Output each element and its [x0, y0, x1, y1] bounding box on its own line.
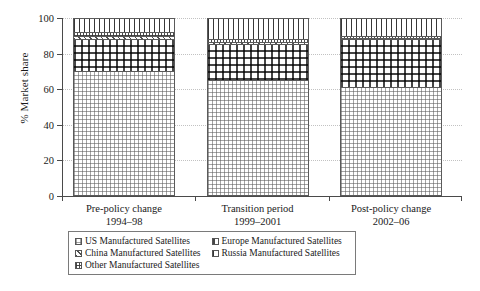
legend-label-russia: Russia Manufactured Satellites: [222, 247, 340, 259]
x-category-label-3-line2: 2002–06: [316, 216, 466, 229]
legend-cell-us[interactable]: US Manufactured Satellites: [73, 235, 210, 247]
y-tick-label-0: 0: [49, 191, 54, 202]
russia-swatch-icon: [212, 250, 219, 257]
x-category-label-1: Pre-policy change 1994–98: [49, 203, 199, 228]
y-tick-label-40: 40: [44, 119, 55, 130]
china-swatch-icon: [75, 250, 82, 257]
legend-label-china: China Manufactured Satellites: [85, 247, 201, 259]
bar1-segment-us[interactable]: [74, 71, 174, 196]
bar2-segment-us[interactable]: [208, 80, 308, 196]
legend-row-3: Other Manufactured Satellites: [73, 259, 351, 271]
plot-area: 100 80 60 40 20 0: [62, 18, 462, 196]
legend-row-1: US Manufactured Satellites Europe Manufa…: [73, 235, 351, 247]
y-axis-line: [62, 18, 63, 196]
stacked-bar-chart: % Market share 100 80 60 40 20: [0, 0, 480, 291]
legend-cell-europe[interactable]: Europe Manufactured Satellites: [210, 235, 352, 247]
x-category-label-1-line2: 1994–98: [49, 216, 199, 229]
other-swatch-icon: [75, 262, 82, 269]
y-tick-100: [57, 18, 62, 19]
legend-label-other: Other Manufactured Satellites: [85, 259, 200, 271]
legend-cell-russia[interactable]: Russia Manufactured Satellites: [210, 247, 352, 259]
bar1-segment-russia[interactable]: [74, 18, 174, 32]
y-tick-60: [57, 89, 62, 90]
legend-label-us: US Manufactured Satellites: [85, 235, 190, 247]
bar2-segment-russia[interactable]: [208, 18, 308, 39]
bar1-segment-other[interactable]: [74, 32, 174, 36]
x-tick-end: [461, 196, 462, 201]
x-tick-2: [329, 196, 330, 201]
y-axis-title: % Market share: [18, 18, 30, 158]
y-tick-80: [57, 54, 62, 55]
x-category-label-3-line1: Post-policy change: [351, 203, 431, 214]
legend-label-europe: Europe Manufactured Satellites: [222, 235, 342, 247]
legend-row-2: China Manufactured Satellites Russia Man…: [73, 247, 351, 259]
legend-cell-empty: [210, 259, 352, 271]
europe-swatch-icon: [212, 238, 219, 245]
bar2-segment-other[interactable]: [208, 39, 308, 42]
x-category-label-3: Post-policy change 2002–06: [316, 203, 466, 228]
x-tick-1: [195, 196, 196, 201]
y-tick-label-100: 100: [38, 13, 54, 24]
x-category-label-2-line2: 1999–2001: [183, 216, 333, 229]
bar2-segment-china[interactable]: [208, 42, 308, 44]
y-tick-40: [57, 125, 62, 126]
y-tick-20: [57, 160, 62, 161]
bar1-segment-europe[interactable]: [74, 39, 174, 71]
bar2-segment-europe[interactable]: [208, 44, 308, 81]
table-row[interactable]: [340, 18, 442, 196]
us-swatch-icon: [75, 238, 82, 245]
x-axis-line: [62, 196, 462, 197]
bar3-segment-other[interactable]: [341, 36, 441, 38]
bar3-segment-russia[interactable]: [341, 18, 441, 36]
x-category-label-2: Transition period 1999–2001: [183, 203, 333, 228]
y-tick-label-20: 20: [44, 155, 55, 166]
chart-legend: US Manufactured Satellites Europe Manufa…: [68, 231, 356, 275]
bar3-segment-europe[interactable]: [341, 39, 441, 87]
y-tick-label-60: 60: [44, 84, 55, 95]
x-category-label-1-line1: Pre-policy change: [86, 203, 162, 214]
x-category-label-2-line1: Transition period: [221, 203, 293, 214]
legend-cell-other[interactable]: Other Manufactured Satellites: [73, 259, 210, 271]
bar1-segment-china[interactable]: [74, 36, 174, 40]
bar3-segment-china[interactable]: [341, 38, 441, 40]
x-tick-start: [62, 196, 63, 201]
legend-cell-china[interactable]: China Manufactured Satellites: [73, 247, 210, 259]
table-row[interactable]: [73, 18, 175, 196]
table-row[interactable]: [207, 18, 309, 196]
y-tick-label-80: 80: [44, 48, 55, 59]
bar3-segment-us[interactable]: [341, 87, 441, 196]
